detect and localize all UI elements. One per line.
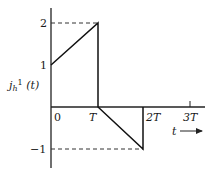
- chart: 2 1 −1 jh1 (t) 0 T 2T 3T t: [0, 0, 217, 172]
- x-axis-label: t: [172, 125, 177, 138]
- xtick-T: T: [89, 111, 98, 124]
- xtick-3T: 3T: [183, 111, 199, 124]
- signal-curve: [51, 23, 143, 149]
- ytick-minus1: −1: [30, 143, 46, 156]
- arrow-head-icon: [196, 128, 203, 134]
- ytick-1: 1: [40, 59, 47, 72]
- y-axis-label: jh1 (t): [6, 78, 39, 93]
- ytick-2: 2: [40, 17, 47, 30]
- xtick-2T: 2T: [145, 111, 162, 124]
- xtick-0: 0: [54, 111, 61, 124]
